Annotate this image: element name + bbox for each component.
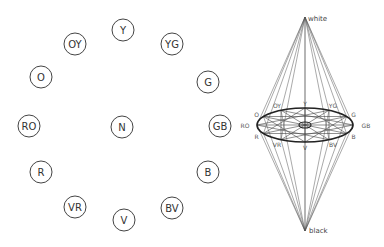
vertex-label-yg: YG	[328, 102, 338, 109]
hue-node-bv: BV	[161, 197, 183, 219]
node-label: O	[37, 72, 45, 83]
node-label: RO	[22, 121, 37, 132]
node-label: N	[118, 122, 125, 133]
black-label: black	[309, 227, 329, 235]
ray-white	[263, 17, 305, 117]
node-label: GB	[213, 121, 228, 132]
hue-node-oy: OY	[64, 33, 86, 55]
ray-black	[263, 134, 305, 232]
hue-node-n: N	[111, 116, 133, 138]
triad-chord	[263, 117, 305, 143]
hue-circle-diagram: YYGGGBBBVVVRRROOOYN	[18, 19, 231, 231]
color-solid-diagram: YYGGGBBBVVVRRROOOYwhiteblack	[241, 15, 371, 235]
node-label: V	[121, 215, 128, 226]
hue-node-ro: RO	[18, 115, 40, 137]
vertex-label-vr: VR	[273, 141, 281, 148]
color-diagram: YYGGGBBBVVVRRROOOYN YYGGGBBBVVVRRROOOYwh…	[0, 0, 384, 247]
vertex-label-r: R	[254, 133, 258, 140]
hue-node-o: O	[30, 66, 52, 88]
vertex-label-y: Y	[302, 100, 307, 107]
hue-node-v: V	[113, 209, 135, 231]
node-label: G	[204, 77, 212, 88]
ray-white	[305, 17, 329, 110]
ray-black	[305, 134, 347, 232]
vertex-label-g: G	[351, 111, 356, 118]
vertex-label-ro: RO	[241, 122, 250, 129]
vertex-label-b: B	[351, 133, 355, 140]
vertex-label-oy: OY	[273, 102, 281, 109]
triad-chord	[305, 108, 347, 134]
node-label: BV	[165, 203, 179, 214]
node-label: VR	[68, 202, 82, 213]
vertex-label-gb: GB	[362, 122, 371, 129]
node-label: B	[205, 167, 212, 178]
vertex-label-o: O	[254, 111, 259, 118]
node-label: YG	[164, 39, 179, 50]
hue-node-r: R	[30, 161, 52, 183]
ray-white	[305, 17, 347, 134]
hue-node-gb: GB	[209, 115, 231, 137]
ray-white	[281, 17, 305, 110]
hue-node-y: Y	[112, 19, 134, 41]
ray-white	[263, 17, 305, 134]
node-label: R	[38, 167, 45, 178]
white-label: white	[308, 15, 327, 23]
vertex-label-bv: BV	[329, 141, 338, 148]
ray-white	[281, 17, 305, 140]
vertex-label-v: V	[303, 144, 308, 151]
node-label: Y	[119, 25, 127, 36]
ray-black	[281, 110, 305, 231]
hue-node-g: G	[197, 71, 219, 93]
hue-node-b: B	[197, 161, 219, 183]
triad-chord	[263, 108, 305, 134]
hue-node-yg: YG	[161, 33, 183, 55]
hue-node-vr: VR	[64, 196, 86, 218]
ray-white	[305, 17, 329, 140]
node-label: OY	[68, 39, 82, 50]
triad-chord	[305, 117, 347, 143]
ray-white	[305, 17, 347, 117]
ray-black	[305, 110, 329, 231]
